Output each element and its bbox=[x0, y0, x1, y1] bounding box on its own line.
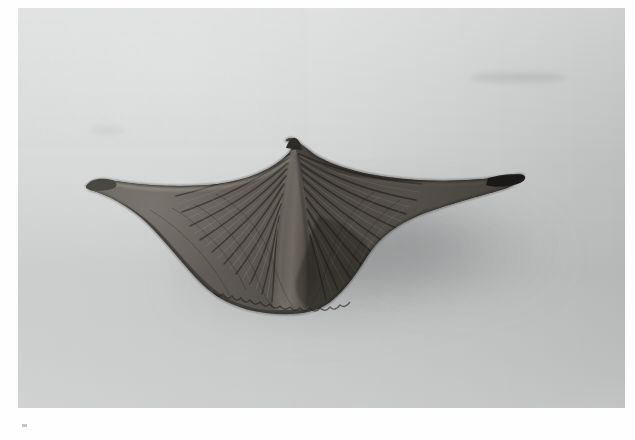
upper-right-smudge bbox=[470, 72, 566, 83]
mid-right-speck bbox=[398, 243, 405, 249]
bottom-left-tick bbox=[22, 424, 27, 427]
screenshot-root bbox=[0, 0, 635, 440]
upper-left-smudge bbox=[90, 126, 124, 135]
print-sheen bbox=[18, 8, 625, 408]
photographic-print bbox=[18, 8, 625, 408]
